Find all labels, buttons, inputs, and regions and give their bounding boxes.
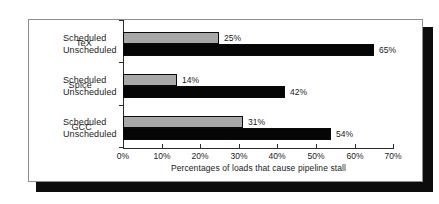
x-axis-line	[123, 148, 394, 149]
bar-value-spice-unscheduled: 42%	[290, 87, 307, 97]
x-axis-tick	[393, 144, 394, 149]
bar-tex-unscheduled[interactable]	[123, 44, 374, 56]
series-label-gcc-unscheduled: Unscheduled	[63, 129, 121, 139]
bar-value-gcc-unscheduled: 54%	[336, 129, 353, 139]
x-axis-tick-label: 60%	[335, 151, 375, 161]
x-axis-tick-label: 20%	[180, 151, 220, 161]
x-axis-tick	[200, 144, 201, 149]
x-axis-tick-label: 0%	[103, 151, 143, 161]
bar-value-gcc-scheduled: 31%	[248, 117, 265, 127]
x-axis-tick	[355, 144, 356, 149]
x-axis-tick-label: 70%	[373, 151, 413, 161]
bar-tex-scheduled[interactable]	[123, 32, 219, 44]
y-axis-tick	[119, 105, 124, 106]
x-axis-tick	[316, 144, 317, 149]
bar-spice-scheduled[interactable]	[123, 74, 177, 86]
bar-value-tex-scheduled: 25%	[224, 33, 241, 43]
bar-value-tex-unscheduled: 65%	[379, 45, 396, 55]
x-axis-tick-label: 40%	[257, 151, 297, 161]
bar-value-spice-scheduled: 14%	[182, 75, 199, 85]
y-axis-tick	[119, 20, 124, 21]
y-axis-tick	[119, 62, 124, 63]
x-axis-tick	[239, 144, 240, 149]
bar-spice-unscheduled[interactable]	[123, 86, 285, 98]
x-axis-tick-label: 50%	[296, 151, 336, 161]
series-label-spice-unscheduled: Unscheduled	[63, 87, 121, 97]
x-axis-tick-label: 10%	[142, 151, 182, 161]
x-axis-tick	[277, 144, 278, 149]
bar-gcc-scheduled[interactable]	[123, 116, 243, 128]
x-axis-tick-label: 30%	[219, 151, 259, 161]
x-axis-tick	[162, 144, 163, 149]
x-axis-title: Percentages of loads that cause pipeline…	[123, 163, 394, 173]
series-label-tex-unscheduled: Unscheduled	[63, 45, 121, 55]
bar-chart-plot-area: TeX Spice GCC Scheduled Unscheduled Sche…	[0, 0, 439, 204]
x-axis-tick	[123, 144, 124, 149]
bar-gcc-unscheduled[interactable]	[123, 128, 331, 140]
series-label-tex-scheduled: Scheduled	[63, 33, 121, 43]
series-label-gcc-scheduled: Scheduled	[63, 117, 121, 127]
series-label-spice-scheduled: Scheduled	[63, 75, 121, 85]
